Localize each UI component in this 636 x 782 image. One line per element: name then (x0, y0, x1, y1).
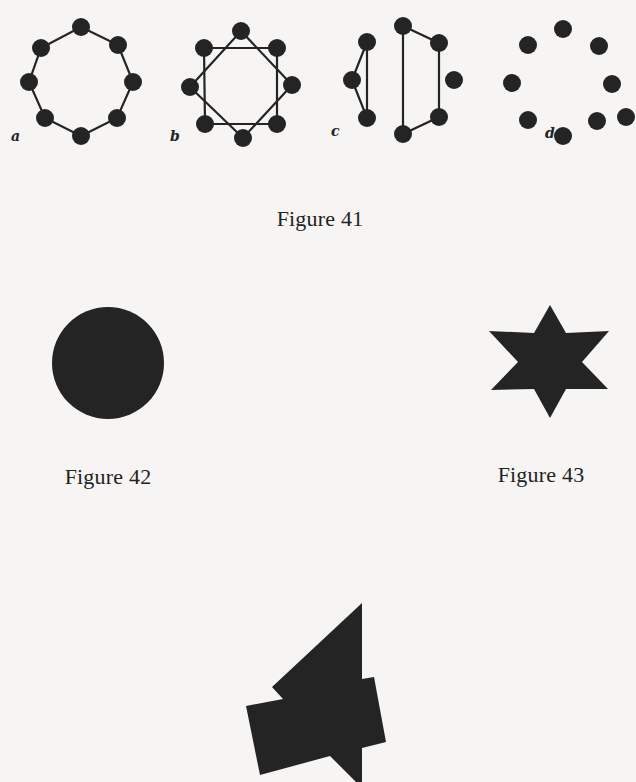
figure-43-star (489, 305, 609, 418)
figure-42-caption: Figure 42 (65, 464, 152, 490)
figure-42-disc (52, 307, 164, 419)
panel-label-b: b (170, 128, 180, 144)
figure-44-shape (246, 603, 386, 782)
book-page: a b c d Figure 41 Figure 42 Figure 43 (0, 0, 636, 782)
figure-43-caption: Figure 43 (498, 462, 585, 488)
figure-41-caption: Figure 41 (277, 206, 364, 232)
figure-41a-graph (20, 18, 142, 145)
panel-label-a: a (11, 128, 20, 144)
figures-canvas (0, 0, 636, 782)
figure-41c-graph (343, 17, 463, 143)
figure-41d-graph (503, 20, 635, 145)
figure-41b-graph (181, 22, 301, 147)
panel-label-c: c (331, 123, 340, 139)
panel-label-d: d (545, 125, 555, 141)
